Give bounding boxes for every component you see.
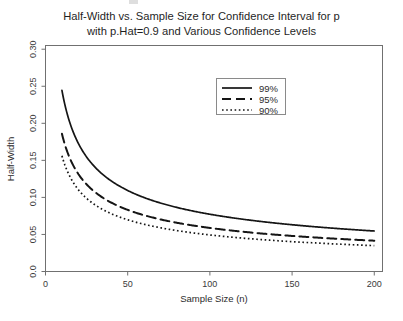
y-tick-label: 0.05 bbox=[28, 226, 38, 244]
y-axis-ticks: 0.00.050.100.150.200.250.30 bbox=[28, 40, 46, 277]
x-tick-label: 200 bbox=[367, 279, 382, 289]
y-tick-label: 0.20 bbox=[28, 115, 38, 133]
x-axis-title: Sample Size (n) bbox=[180, 293, 248, 304]
x-tick-label: 50 bbox=[123, 279, 133, 289]
legend-label-95pct: 95% bbox=[259, 94, 279, 105]
y-axis-title: Half-Width bbox=[5, 137, 16, 181]
y-tick-label: 0.30 bbox=[28, 40, 38, 58]
plot-area: 0.00.050.100.150.200.250.30 050100150200… bbox=[0, 0, 403, 321]
x-tick-label: 100 bbox=[202, 279, 217, 289]
y-tick-label: 0.25 bbox=[28, 77, 38, 95]
x-tick-label: 0 bbox=[43, 279, 48, 289]
curve-95pct bbox=[62, 134, 374, 241]
chart-figure: Half-Width vs. Sample Size for Confidenc… bbox=[0, 0, 403, 321]
y-tick-label: 0.15 bbox=[28, 152, 38, 170]
y-tick-label: 0.0 bbox=[28, 265, 38, 278]
legend-label-99pct: 99% bbox=[259, 83, 279, 94]
legend-label-90pct: 90% bbox=[259, 105, 279, 116]
x-tick-label: 150 bbox=[285, 279, 300, 289]
chart-legend: 99%95%90% bbox=[217, 79, 286, 116]
y-tick-label: 0.10 bbox=[28, 189, 38, 207]
x-axis-ticks: 050100150200 bbox=[43, 272, 382, 289]
